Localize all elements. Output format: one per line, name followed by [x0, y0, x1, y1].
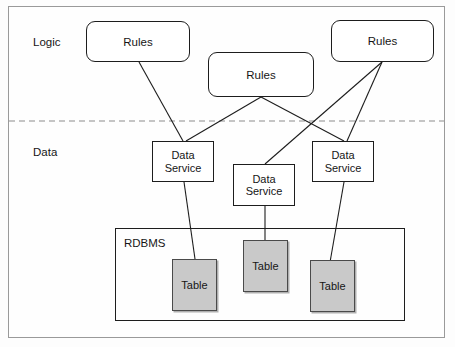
data-service-node-1-label: Data Service: [165, 149, 202, 174]
table-node-3-label: Table: [319, 280, 345, 292]
connector-rules2-ds3: [261, 97, 344, 141]
connector-ds3-table3: [329, 182, 344, 268]
data-service-node-1-line2: Service: [165, 162, 202, 174]
rules-node-2[interactable]: Rules: [208, 52, 314, 97]
table-node-3[interactable]: Table: [310, 260, 355, 312]
connector-rules3-ds3: [347, 62, 382, 141]
connector-rules1-ds1: [139, 62, 183, 141]
data-service-node-2-line2: Service: [246, 185, 283, 197]
data-service-node-2-line1: Data: [252, 173, 275, 185]
table-node-2[interactable]: Table: [243, 240, 288, 292]
data-service-node-2-label: Data Service: [246, 173, 283, 198]
data-service-node-2[interactable]: Data Service: [233, 164, 295, 206]
connector-ds1-table1: [184, 182, 196, 266]
data-service-node-3[interactable]: Data Service: [312, 141, 374, 182]
table-node-1-label: Table: [181, 279, 207, 291]
data-service-node-3-line2: Service: [325, 162, 362, 174]
data-service-node-1-line1: Data: [171, 149, 194, 161]
rules-node-1[interactable]: Rules: [86, 21, 190, 62]
rules-node-3[interactable]: Rules: [331, 20, 434, 62]
table-node-1[interactable]: Table: [172, 259, 217, 311]
data-service-node-3-label: Data Service: [325, 149, 362, 174]
connector-rules2-ds1: [186, 97, 261, 141]
table-node-2-label: Table: [252, 260, 278, 272]
diagram-canvas: Logic Data RDBMS Rules Rules Rules Data …: [0, 0, 455, 347]
data-service-node-1[interactable]: Data Service: [152, 141, 214, 182]
rules-node-1-label: Rules: [123, 36, 152, 48]
rules-node-2-label: Rules: [246, 69, 275, 81]
data-service-node-3-line1: Data: [331, 149, 354, 161]
rules-node-3-label: Rules: [368, 35, 397, 47]
